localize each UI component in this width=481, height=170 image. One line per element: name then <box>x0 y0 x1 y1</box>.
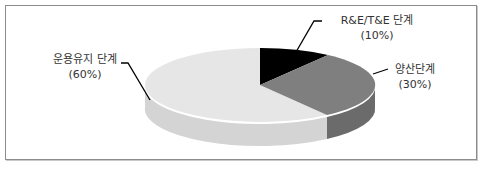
label-operation-maintenance: 운용유지 단계 (60%) <box>45 52 125 82</box>
label-re-te-name: R&E/T&E 단계 <box>327 13 427 28</box>
label-mass-production: 양산단계 (30%) <box>385 62 445 92</box>
pie-top <box>145 48 375 122</box>
label-re-te: R&E/T&E 단계 (10%) <box>327 13 427 43</box>
label-mass-production-name: 양산단계 <box>385 62 445 77</box>
label-operation-maintenance-name: 운용유지 단계 <box>45 52 125 67</box>
label-mass-production-pct: (30%) <box>385 77 445 92</box>
label-operation-maintenance-pct: (60%) <box>45 67 125 82</box>
label-re-te-pct: (10%) <box>327 28 427 43</box>
